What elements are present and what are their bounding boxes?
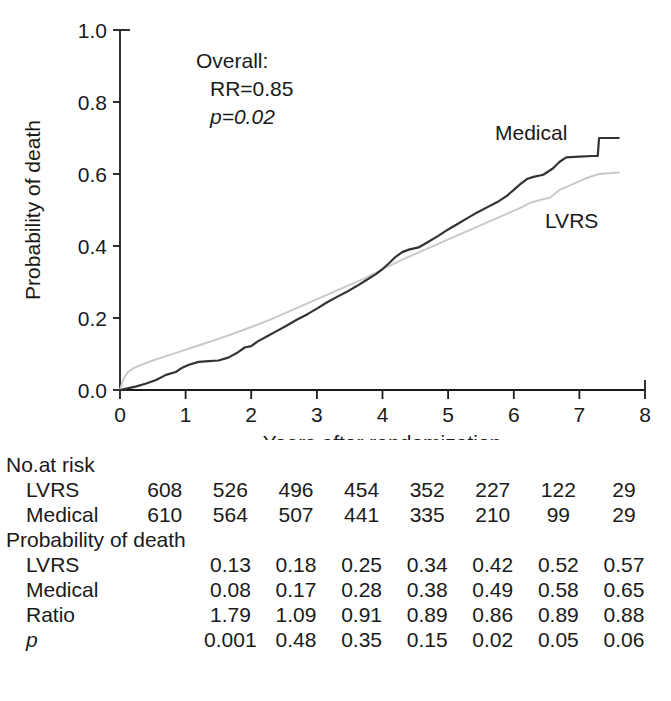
survival-plot: 0.0 0.2 0.4 0.6 0.8 1.0 0 1 2 3 4 5 6 7 … [0, 0, 671, 440]
table-cell: 0.86 [460, 602, 526, 627]
risk-cells-medical: 610 564 507 441 335 210 99 29 [132, 502, 671, 527]
table-row: Medical 610 564 507 441 335 210 99 29 [0, 502, 671, 527]
x-axis-ticks [120, 390, 645, 399]
table-cell: 0.88 [591, 602, 657, 627]
table-cell: 0.48 [263, 627, 329, 652]
x-tick-label: 4 [377, 403, 389, 426]
lvrs-curve-label: LVRS [545, 209, 598, 232]
y-tick-label: 1.0 [78, 19, 107, 42]
kaplan-meier-figure: 0.0 0.2 0.4 0.6 0.8 1.0 0 1 2 3 4 5 6 7 … [0, 0, 671, 701]
x-tick-label: 8 [639, 403, 651, 426]
table-cell: 0.91 [329, 602, 395, 627]
annotation-overall: Overall: [196, 49, 268, 72]
row-label-medical-prob: Medical [0, 577, 132, 602]
y-axis-title: Probability of death [21, 120, 44, 300]
y-tick-label: 0.8 [78, 91, 107, 114]
table-cell: 507 [263, 502, 329, 527]
table-row: p 0.001 0.48 0.35 0.15 0.02 0.05 0.06 [0, 627, 671, 652]
table-cell: 29 [591, 502, 657, 527]
row-label-lvrs-risk: LVRS [0, 477, 132, 502]
table-cell: 1.79 [198, 602, 264, 627]
table-cell: 210 [460, 502, 526, 527]
x-tick-label: 6 [508, 403, 520, 426]
table-cell: 0.25 [329, 552, 395, 577]
table-cell: 227 [460, 477, 526, 502]
table-cell: 564 [198, 502, 264, 527]
row-label-ratio: Ratio [0, 602, 132, 627]
x-tick-labels: 0 1 2 3 4 5 6 7 8 [114, 403, 651, 426]
risk-cells-lvrs: 608 526 496 454 352 227 122 29 [132, 477, 671, 502]
x-axis-title: Years after randomization [263, 431, 502, 440]
x-tick-label: 1 [180, 403, 192, 426]
table-cell: 0.15 [394, 627, 460, 652]
y-tick-label: 0.2 [78, 307, 107, 330]
table-cell: 0.52 [526, 552, 592, 577]
table-cell: 610 [132, 502, 198, 527]
table-cell: 0.17 [263, 577, 329, 602]
table-cell: 0.89 [526, 602, 592, 627]
annotation-pvalue: p=0.02 [209, 105, 275, 128]
lvrs-curve [120, 173, 619, 390]
y-tick-label: 0.0 [78, 379, 107, 402]
x-tick-label: 2 [245, 403, 257, 426]
table-cell: 99 [526, 502, 592, 527]
table-cell: 352 [394, 477, 460, 502]
table-cell: 0.58 [526, 577, 592, 602]
table-cell: 496 [263, 477, 329, 502]
table-cell: 608 [132, 477, 198, 502]
row-label-medical-risk: Medical [0, 502, 132, 527]
medical-curve [120, 138, 619, 390]
y-tick-labels: 0.0 0.2 0.4 0.6 0.8 1.0 [78, 19, 108, 402]
table-cell: 0.89 [394, 602, 460, 627]
table-cell: 0.35 [329, 627, 395, 652]
prob-cells-pvalue: 0.001 0.48 0.35 0.15 0.02 0.05 0.06 [132, 627, 671, 652]
table-cell: 0.65 [591, 577, 657, 602]
y-tick-label: 0.4 [78, 235, 108, 258]
table-cell: 0.38 [394, 577, 460, 602]
table-cell: 0.42 [460, 552, 526, 577]
row-label-pvalue: p [0, 627, 132, 652]
table-cell: 0.28 [329, 577, 395, 602]
annotation-rr: RR=0.85 [210, 77, 293, 100]
x-tick-label: 3 [311, 403, 323, 426]
table-cell: 454 [329, 477, 395, 502]
table-cell: 335 [394, 502, 460, 527]
risk-and-probability-table: No.at risk LVRS 608 526 496 454 352 227 … [0, 452, 671, 652]
table-cell: 0.18 [263, 552, 329, 577]
table-cell: 0.05 [526, 627, 592, 652]
y-tick-label: 0.6 [78, 163, 107, 186]
table-cell: 0.13 [198, 552, 264, 577]
x-tick-label: 7 [574, 403, 586, 426]
y-axis-ticks [113, 30, 120, 390]
no-at-risk-heading: No.at risk [0, 452, 671, 477]
medical-curve-label: Medical [495, 121, 567, 144]
table-row: Medical 0.08 0.17 0.28 0.38 0.49 0.58 0.… [0, 577, 671, 602]
table-cell: 0.34 [394, 552, 460, 577]
table-cell: 0.001 [198, 627, 264, 652]
table-row: LVRS 0.13 0.18 0.25 0.34 0.42 0.52 0.57 [0, 552, 671, 577]
table-row: Ratio 1.79 1.09 0.91 0.89 0.86 0.89 0.88 [0, 602, 671, 627]
table-cell: 0.06 [591, 627, 657, 652]
table-cell: 0.57 [591, 552, 657, 577]
probability-of-death-heading: Probability of death [0, 527, 671, 552]
table-cell: 1.09 [263, 602, 329, 627]
table-cell: 0.49 [460, 577, 526, 602]
table-cell: 441 [329, 502, 395, 527]
overall-annotation: Overall: RR=0.85 p=0.02 [196, 49, 293, 128]
prob-cells-lvrs: 0.13 0.18 0.25 0.34 0.42 0.52 0.57 [132, 552, 671, 577]
x-tick-label: 0 [114, 403, 126, 426]
x-tick-label: 5 [442, 403, 454, 426]
prob-cells-medical: 0.08 0.17 0.28 0.38 0.49 0.58 0.65 [132, 577, 671, 602]
table-cell: 122 [526, 477, 592, 502]
table-cell: 29 [591, 477, 657, 502]
prob-cells-ratio: 1.79 1.09 0.91 0.89 0.86 0.89 0.88 [132, 602, 671, 627]
row-label-lvrs-prob: LVRS [0, 552, 132, 577]
table-cell: 0.02 [460, 627, 526, 652]
table-cell: 526 [198, 477, 264, 502]
table-cell: 0.08 [198, 577, 264, 602]
table-row: LVRS 608 526 496 454 352 227 122 29 [0, 477, 671, 502]
